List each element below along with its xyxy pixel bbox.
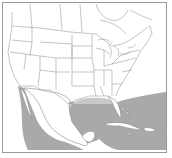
puerto-rico xyxy=(158,130,162,131)
jamaica xyxy=(126,133,132,135)
map-canvas xyxy=(0,0,172,158)
range-map xyxy=(0,0,172,158)
